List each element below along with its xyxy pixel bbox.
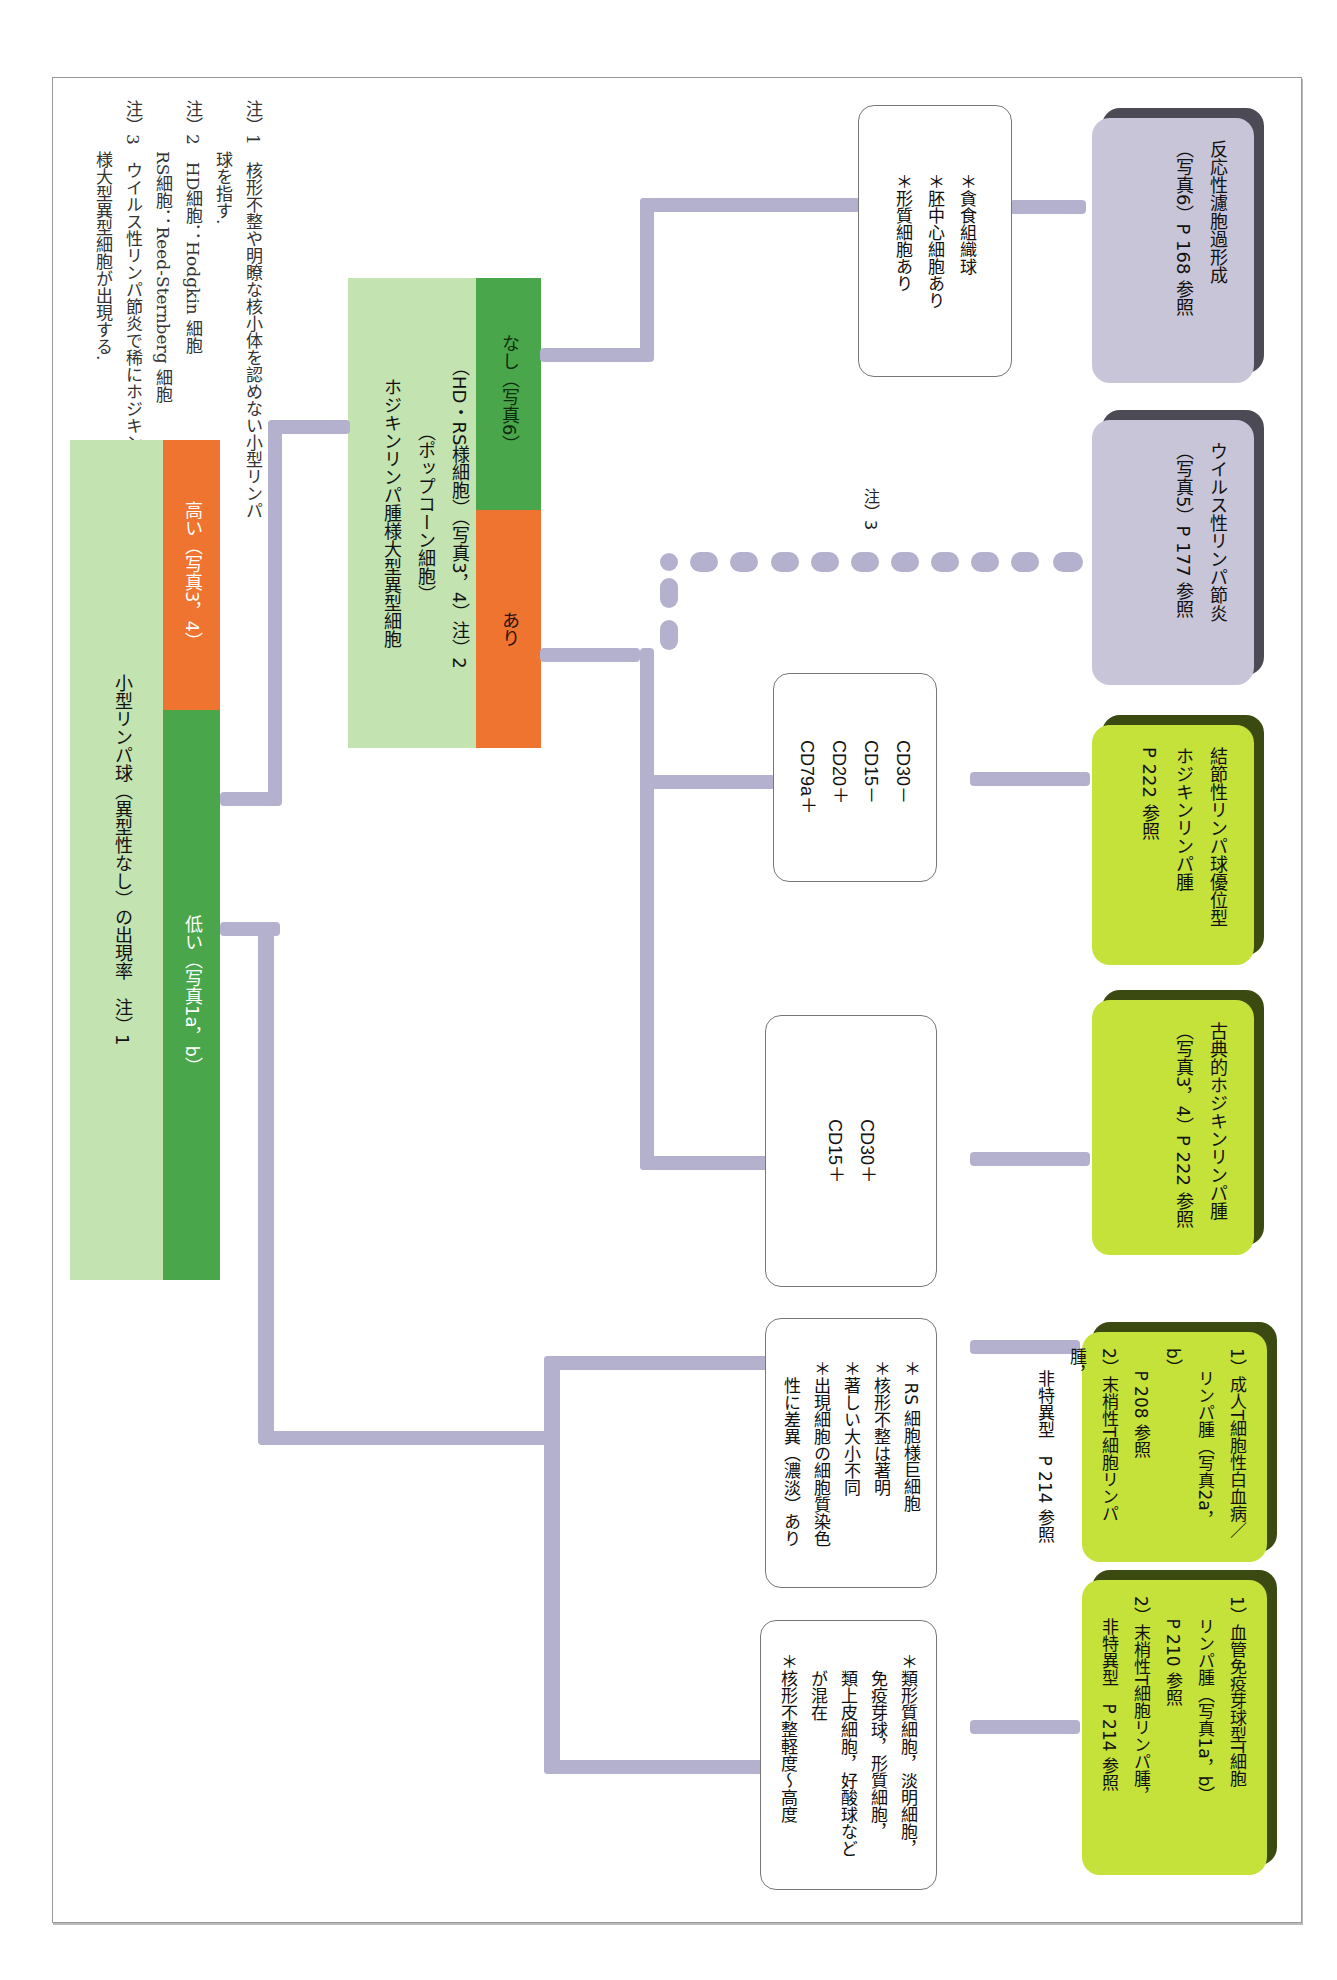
connector-lower-split-vertical xyxy=(544,1356,560,1774)
dashed-connector xyxy=(660,553,678,571)
connector-to-aitl-criteria xyxy=(544,1760,770,1774)
note-1: 注）1 核形不整や明瞭な核小体を認めない小型リンパ xyxy=(238,100,268,700)
result-viral-lymphadenitis: ウイルス性リンパ節炎 （写真5）P 177 参照 xyxy=(1092,420,1254,685)
dashed-connector xyxy=(730,552,758,572)
connector-atl-result xyxy=(970,1340,1080,1354)
dashed-connector xyxy=(891,552,919,572)
criteria-classic: CD30＋ CD15＋ xyxy=(765,1015,937,1287)
hodgkin-title-3: （HD・RS様細胞）（写真3，4）注）2 xyxy=(444,278,474,748)
dashed-connector xyxy=(1053,552,1083,572)
result-aitl-ptcl: 1）血管免疫芽球型T細胞 リンパ腫（写真1a，b） P 210 参照 2）末梢性… xyxy=(1082,1580,1267,1875)
result-classic-hodgkin: 古典的ホジキンリンパ腫 （写真3，4）P 222 参照 xyxy=(1092,1000,1254,1255)
connector-reactive-result xyxy=(1010,200,1086,214)
root-title: 小型リンパ球（異型性なし）の出現率 注）1 xyxy=(102,440,142,1280)
hodgkin-yes-tab: あり xyxy=(476,510,541,748)
result-atl-ptcl: 1）成人T細胞性白血病／ リンパ腫（写真2a，b） P 208 参照 2）末梢性… xyxy=(1082,1332,1267,1562)
connector-no-vertical xyxy=(640,198,654,362)
connector-low-vertical xyxy=(258,922,274,1444)
connector-nlphl-result xyxy=(970,772,1090,786)
result-nlphl: 結節性リンパ球優位型 ホジキンリンパ腫 P 222 参照 xyxy=(1092,725,1254,965)
note-3-label: 注）3 xyxy=(858,488,882,530)
hodgkin-title-2: （ポップコーン細胞） xyxy=(410,278,440,748)
root-low-tab: 低い（写真1a，b） xyxy=(163,710,220,1280)
criteria-atl: ＊ RS 細胞様巨細胞 ＊核形不整は著明 ＊著しい大小不同 ＊出現細胞の細胞質染… xyxy=(765,1318,937,1588)
dashed-connector xyxy=(660,620,678,650)
connector xyxy=(268,420,282,806)
dashed-connector xyxy=(1011,552,1039,572)
dashed-connector xyxy=(811,552,839,572)
dashed-connector xyxy=(851,552,879,572)
connector-to-classic-criteria xyxy=(640,1156,775,1170)
connector-to-atl-criteria xyxy=(544,1356,772,1370)
connector-classic-result xyxy=(970,1152,1090,1166)
connector-low-lower-split xyxy=(258,1431,558,1445)
dashed-connector xyxy=(660,578,678,608)
criteria-aitl: ＊類形質細胞，淡明細胞， 免疫芽球，形質細胞， 類上皮細胞，好酸球など が混在 … xyxy=(760,1620,937,1890)
hodgkin-title-1: ホジキンリンパ腫様大型異型細胞 xyxy=(376,278,406,748)
dashed-connector xyxy=(771,552,799,572)
dashed-connector xyxy=(971,552,999,572)
criteria-nlphl: CD30－ CD15－ CD20＋ CD79a＋ xyxy=(773,673,937,882)
connector-to-nlphl-criteria xyxy=(640,775,775,789)
connector-no xyxy=(540,348,650,362)
hodgkin-no-tab: なし（写真6） xyxy=(476,278,541,510)
connector xyxy=(268,420,350,434)
dashed-connector xyxy=(931,552,959,572)
connector-yes xyxy=(540,648,640,662)
connector-aitl-result xyxy=(970,1720,1080,1734)
connector-yes-vertical xyxy=(640,648,654,1170)
criteria-reactive: ＊貪食組織球 ＊胚中心細胞あり ＊形質細胞あり xyxy=(858,105,1012,377)
connector-to-reactive-criteria xyxy=(640,198,860,212)
root-high-tab: 高い（写真3，4） xyxy=(163,440,220,710)
result-reactive-follicular-hyperplasia: 反応性濾胞過形成 （写真6）P 168 参照 xyxy=(1092,118,1254,383)
dashed-connector xyxy=(690,552,718,572)
